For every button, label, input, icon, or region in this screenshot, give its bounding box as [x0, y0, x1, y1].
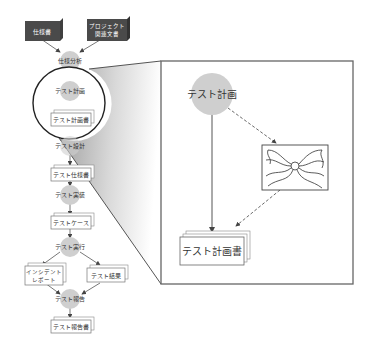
svg-text:テスト計画書: テスト計画書: [182, 245, 242, 257]
doc-test-plan: テスト計画書: [51, 110, 94, 126]
svg-text:関連文書: 関連文書: [95, 30, 119, 38]
input-spec-doc: 仕様書: [25, 18, 63, 41]
svg-text:テスト計画書: テスト計画書: [53, 116, 89, 124]
svg-text:レポート: レポート: [32, 277, 56, 283]
svg-text:テスト設計: テスト設計: [55, 142, 85, 150]
svg-text:テスト報告書: テスト報告書: [53, 323, 89, 331]
tangle-illustration: [262, 145, 328, 190]
svg-text:仕様分析: 仕様分析: [58, 57, 82, 65]
process-test-implementation: テスト実装: [55, 185, 85, 205]
doc-test-cases: テストケース: [51, 213, 94, 229]
input-project-docs: プロジェクト 関連文書: [87, 16, 130, 41]
svg-text:テストケース: テストケース: [53, 219, 89, 227]
svg-text:テスト結果: テスト結果: [91, 272, 121, 280]
svg-text:テスト実装: テスト実装: [55, 191, 85, 199]
zoom-doc-test-plan: テスト計画書: [180, 231, 250, 265]
svg-text:テスト計画: テスト計画: [55, 87, 85, 95]
magnifier-circle: [33, 67, 105, 139]
svg-text:テスト報告: テスト報告: [55, 295, 85, 303]
doc-test-spec: テスト仕様書: [51, 165, 94, 181]
svg-text:インシデント: インシデント: [26, 268, 62, 276]
svg-text:テスト実行: テスト実行: [55, 243, 85, 251]
process-test-reporting: テスト報告: [55, 289, 85, 309]
doc-test-results: テスト結果: [87, 265, 128, 282]
svg-text:テスト仕様書: テスト仕様書: [53, 171, 89, 179]
svg-text:テスト計画: テスト計画: [187, 88, 237, 100]
doc-incident-report: インシデント レポート: [25, 263, 66, 285]
doc-test-report: テスト報告書: [51, 317, 94, 333]
svg-text:仕様書: 仕様書: [33, 28, 51, 36]
process-test-execution: テスト実行: [55, 237, 85, 257]
svg-text:プロジェクト: プロジェクト: [89, 23, 125, 29]
